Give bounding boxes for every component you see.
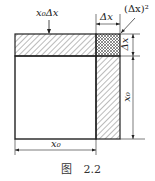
figure-caption: 图 2.2 bbox=[61, 164, 101, 175]
label-top-strip: x₀Δx bbox=[36, 8, 59, 18]
label-right-dx: Δx bbox=[120, 38, 130, 51]
label-bottom-x0: x₀ bbox=[51, 139, 61, 149]
caption-prefix: 图 bbox=[61, 163, 72, 176]
caption-number: 2.2 bbox=[84, 163, 102, 176]
top-strip bbox=[15, 34, 96, 56]
square-expansion-diagram bbox=[0, 0, 155, 181]
right-strip bbox=[96, 56, 120, 139]
label-right-x0: x₀ bbox=[122, 92, 132, 102]
label-top-dx: Δx bbox=[100, 12, 113, 22]
label-corner-square: (Δx)² bbox=[124, 4, 149, 14]
corner-square bbox=[96, 34, 120, 56]
main-square bbox=[15, 56, 96, 139]
